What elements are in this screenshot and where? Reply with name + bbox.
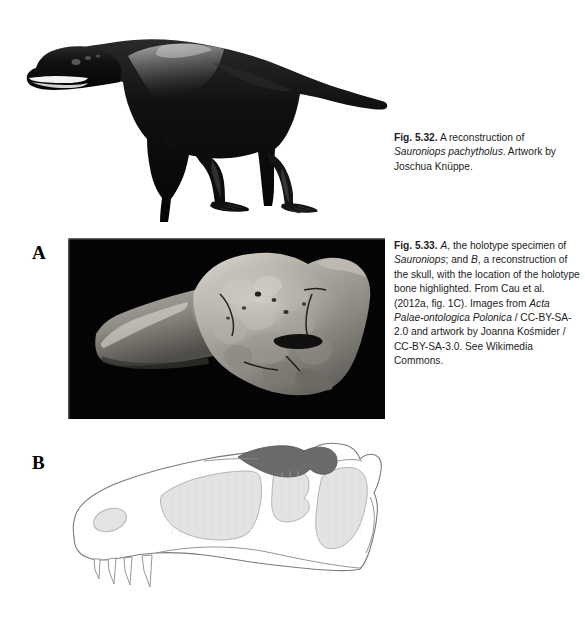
panel-letter-a: A: [32, 243, 46, 262]
skull-reconstruction-svg: [44, 437, 389, 617]
skull-spot-2: [96, 54, 101, 57]
theropod-foot-near: [210, 201, 249, 212]
fig-5-32-caption: Fig. 5.32. A reconstruction of Sauroniop…: [394, 131, 578, 174]
fig-5-32-artwork: [16, 18, 388, 233]
tooth-1: [94, 559, 100, 579]
photo-border-top: [68, 238, 385, 239]
theropod-foot-far: [281, 203, 318, 213]
fig-5-33-caption-italic-2: Sauroniops: [394, 254, 446, 265]
skull-spot-1: [85, 56, 91, 60]
sauroniops-life-reconstruction-svg: [16, 18, 388, 233]
tooth-3: [124, 557, 132, 585]
skull-reconstruction-diagram: [44, 437, 389, 617]
fig-5-33-caption-italic-3: B: [471, 254, 478, 265]
theropod-eye: [72, 59, 81, 65]
holotype-specimen-photograph: [68, 238, 385, 419]
fig-5-32-number: Fig. 5.32.: [394, 132, 438, 143]
holotype-specimen-photo-svg: [68, 238, 385, 419]
panel-letter-b: B: [32, 453, 45, 472]
photo-border-left: [68, 238, 69, 419]
fig-5-32-caption-italic-1: Sauroniops pachytholus: [394, 146, 503, 157]
fig-5-32-caption-text-1: A reconstruction of: [440, 132, 524, 143]
fig-5-33-caption-text-2: ; and: [446, 254, 472, 265]
fig-5-33-number: Fig. 5.33.: [394, 240, 438, 251]
fig-5-33-caption-text-1: , the holotype specimen of: [447, 240, 566, 251]
fig-5-33-caption: Fig. 5.33. A, the holotype specimen of S…: [394, 239, 580, 369]
tooth-4: [142, 555, 152, 587]
tooth-2: [108, 558, 116, 584]
